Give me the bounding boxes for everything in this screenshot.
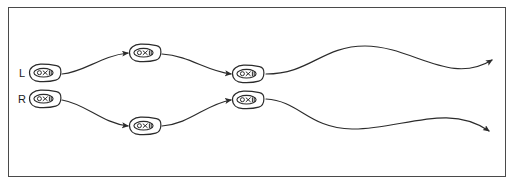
edge-hidden-bottom-to-output-bottom — [162, 100, 231, 126]
network-diagram: L R — [0, 0, 517, 188]
nodes-layer — [30, 44, 264, 135]
input-node-l — [30, 64, 61, 82]
input-node-r — [30, 90, 61, 108]
edge-hidden-top-to-output-top — [162, 54, 231, 74]
output-node-top — [233, 65, 264, 83]
hidden-node-top — [130, 44, 161, 62]
edges-layer — [62, 46, 492, 131]
input-label-r: R — [18, 93, 26, 105]
edge-output-top-to-exit-top — [266, 46, 492, 74]
output-node-bottom — [233, 91, 264, 109]
input-label-l: L — [19, 67, 25, 79]
edge-input-l-to-hidden-top — [62, 53, 128, 74]
edge-input-r-to-hidden-bottom — [62, 100, 128, 126]
figure-canvas: L R — [0, 0, 517, 188]
edge-output-bottom-to-exit-bottom — [266, 99, 489, 131]
hidden-node-bottom — [130, 117, 161, 135]
